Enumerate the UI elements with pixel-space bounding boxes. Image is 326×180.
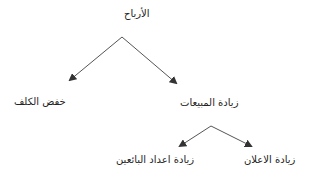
node-reduce-costs: خفض الكلف	[14, 96, 66, 108]
node-increase-sales: زيادة المبيعات	[180, 97, 238, 109]
node-root-profits: الأرباح	[124, 8, 150, 20]
node-increase-sellers: زيادة اعداد البائعين	[116, 154, 194, 166]
edge-sales-sellers	[180, 126, 211, 146]
diagram-edges	[0, 0, 326, 180]
node-increase-ads: زيادة الاعلان	[244, 154, 295, 166]
edge-sales-ads	[211, 126, 251, 146]
edge-root-cost	[70, 37, 122, 80]
edge-root-sales	[122, 37, 176, 83]
